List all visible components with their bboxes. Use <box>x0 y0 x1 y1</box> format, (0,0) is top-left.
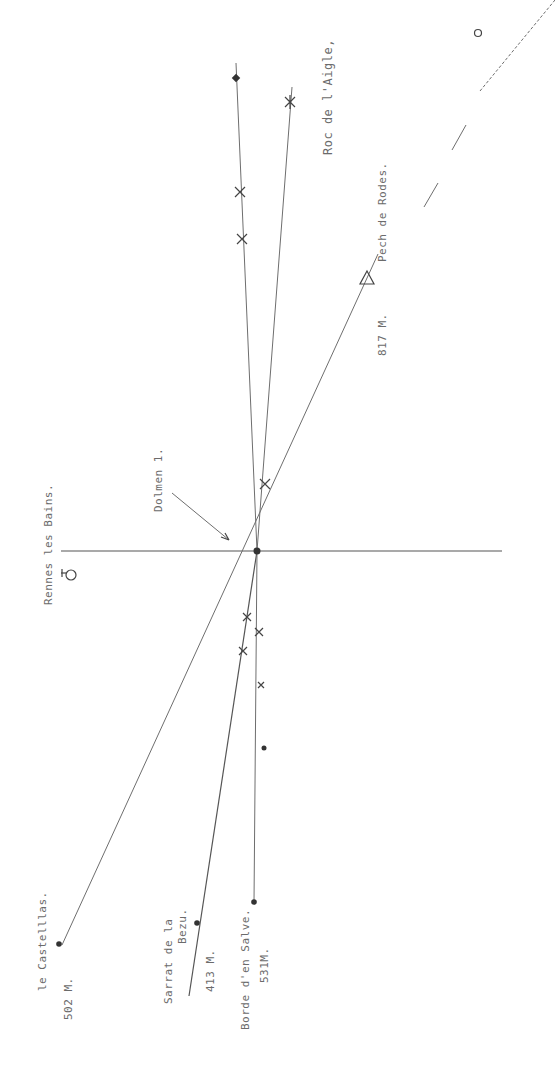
north-line <box>236 63 257 551</box>
borde-line <box>254 551 257 902</box>
alignment-diagram: Rennes les Bains. Dolmen 1. Roc de l'Aig… <box>0 0 555 1080</box>
x-marker-icon <box>237 234 247 244</box>
x-marker-icon <box>258 682 264 688</box>
borde-dot-icon <box>251 899 257 905</box>
castellas-label: le Castelllas. <box>36 891 49 991</box>
diamond-marker-icon <box>232 74 240 82</box>
circle-marker-icon <box>475 30 482 37</box>
pech-altitude-label: 817 M. <box>376 313 389 356</box>
pech-de-rodes-label: Pech de Rodes. <box>376 162 389 262</box>
sarrat-label-line2: Bezu. <box>176 908 189 944</box>
castellas-pech-line <box>62 254 378 945</box>
sarrat-altitude-label: 413 M. <box>204 949 217 992</box>
x-marker-icon <box>260 479 270 489</box>
castellas-dot-icon <box>56 941 62 947</box>
x-marker-icon <box>235 187 245 197</box>
x-marker-icon <box>239 647 247 655</box>
sarrat-label-line1: Sarrat de la <box>162 919 175 1004</box>
borde-label: Borde d'en Salve. <box>239 909 252 1030</box>
dolmen-label: Dolmen 1. <box>152 448 165 512</box>
rennes-symbol-icon <box>61 569 76 580</box>
dolmen-arrow <box>172 493 229 540</box>
roc-de-laigle-label: Roc de l'Aigle, <box>321 39 335 155</box>
star-marker-icon <box>285 95 295 109</box>
center-dot-icon <box>254 548 261 555</box>
borde-altitude-label: 531M. <box>258 947 271 983</box>
dot-marker-icon <box>262 746 267 751</box>
sarrat-dot-icon <box>194 920 200 926</box>
rennes-label: Rennes les Bains. <box>42 484 55 605</box>
dashed-extension <box>424 0 555 207</box>
castellas-altitude-label: 502 M. <box>62 977 75 1020</box>
